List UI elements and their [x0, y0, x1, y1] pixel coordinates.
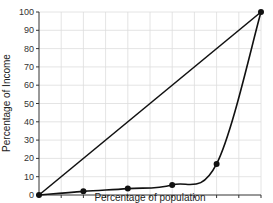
y-tick-label: 100	[19, 7, 34, 17]
y-tick-label: 60	[24, 80, 34, 90]
data-point-marker	[258, 9, 264, 15]
data-point-marker	[36, 192, 42, 198]
x-tick-label: 20	[78, 201, 88, 203]
data-point-marker	[214, 161, 220, 167]
y-tick-label: 80	[24, 44, 34, 54]
y-tick-label: 0	[29, 190, 34, 200]
x-tick-label: 0	[36, 201, 41, 203]
x-axis-label: Percentage of population	[94, 192, 205, 203]
data-point-marker	[80, 188, 86, 194]
y-tick-label: 10	[24, 172, 34, 182]
x-tick-label: 10	[56, 201, 66, 203]
y-tick-label: 90	[24, 25, 34, 35]
y-tick-label: 30	[24, 135, 34, 145]
x-tick-label: 90	[234, 201, 244, 203]
y-tick-label: 70	[24, 62, 34, 72]
y-axis-label: Percentage of Income	[1, 54, 12, 152]
y-tick-label: 20	[24, 153, 34, 163]
y-tick-label: 40	[24, 117, 34, 127]
y-axis-ticks: 0102030405060708090100	[19, 7, 39, 200]
lorenz-chart: 0102030405060708090100 01020304050607080…	[0, 0, 273, 203]
data-point-marker	[169, 182, 175, 188]
y-tick-label: 50	[24, 99, 34, 109]
data-point-marker	[125, 186, 131, 192]
x-tick-label: 80	[212, 201, 222, 203]
x-tick-label: 100	[253, 201, 268, 203]
